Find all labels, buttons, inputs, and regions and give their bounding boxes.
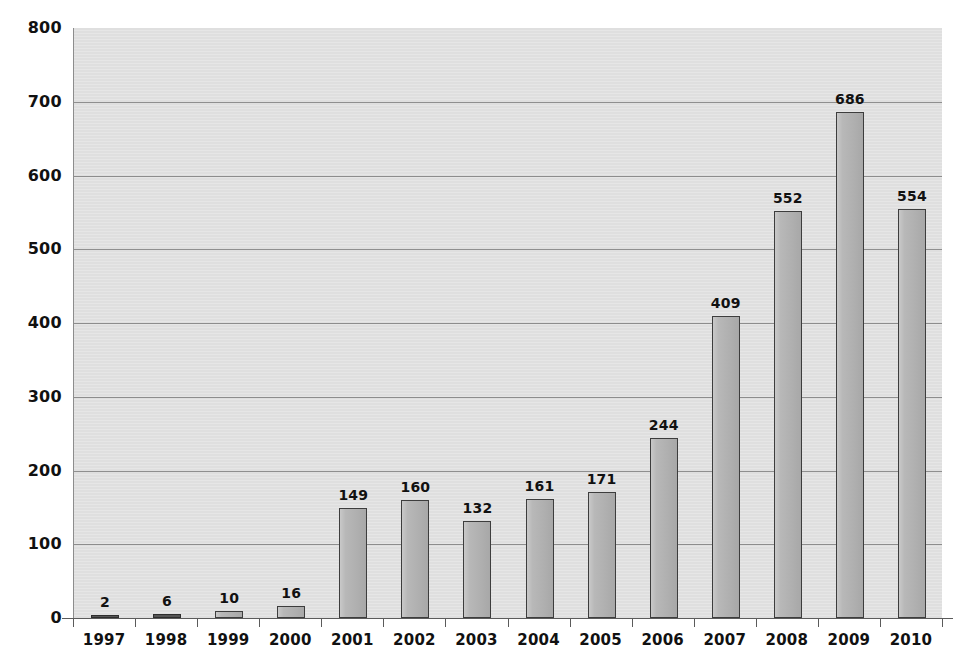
bar-value-label: 10 <box>219 591 239 605</box>
bar[interactable] <box>401 500 429 618</box>
bar-group: 132 <box>446 28 508 618</box>
bar[interactable] <box>650 438 678 618</box>
bar[interactable] <box>277 606 305 618</box>
x-tick-label: 2006 <box>641 631 684 649</box>
x-tick-label: 2008 <box>766 631 809 649</box>
bar[interactable] <box>339 508 367 618</box>
bar-value-label: 686 <box>835 92 865 106</box>
bar[interactable] <box>836 112 864 618</box>
plot-area: 261016149160132161171244409552686554 <box>73 28 942 618</box>
bar-group: 10 <box>198 28 260 618</box>
x-axis-ticks <box>73 618 942 627</box>
bar-value-label: 6 <box>162 594 172 608</box>
bar-group: 244 <box>633 28 695 618</box>
x-tick <box>880 618 881 627</box>
x-tick <box>445 618 446 627</box>
x-tick-label: 1998 <box>145 631 188 649</box>
y-axis: 0100200300400500600700800 <box>0 0 62 670</box>
bar-value-label: 552 <box>773 191 803 205</box>
bar-value-label: 149 <box>338 488 368 502</box>
x-tick <box>321 618 322 627</box>
bar-value-label: 554 <box>897 189 927 203</box>
x-tick-label: 2000 <box>269 631 312 649</box>
y-tick-label: 600 <box>0 168 62 184</box>
x-tick <box>942 618 943 627</box>
x-tick-label: 2005 <box>579 631 622 649</box>
x-tick <box>756 618 757 627</box>
bar-group: 686 <box>819 28 881 618</box>
y-tick-label: 300 <box>0 389 62 405</box>
x-tick-label: 1999 <box>207 631 250 649</box>
x-tick-label: 2010 <box>890 631 933 649</box>
y-tick-label: 200 <box>0 463 62 479</box>
bar-value-label: 16 <box>281 586 301 600</box>
bar-value-label: 160 <box>400 480 430 494</box>
x-tick-label: 2003 <box>455 631 498 649</box>
bar[interactable] <box>898 209 926 618</box>
x-tick <box>632 618 633 627</box>
x-tick-label: 1997 <box>83 631 126 649</box>
x-tick <box>818 618 819 627</box>
x-tick <box>197 618 198 627</box>
bar-group: 554 <box>881 28 943 618</box>
bar-value-label: 171 <box>587 472 617 486</box>
x-tick <box>694 618 695 627</box>
bar[interactable] <box>526 499 554 618</box>
bar[interactable] <box>712 316 740 618</box>
y-tick-label: 500 <box>0 241 62 257</box>
bar-value-label: 409 <box>711 296 741 310</box>
bar[interactable] <box>463 521 491 618</box>
bar-value-label: 161 <box>525 479 555 493</box>
bar-group: 552 <box>757 28 819 618</box>
bar-group: 16 <box>260 28 322 618</box>
y-tick-label: 0 <box>0 610 62 626</box>
x-tick-label: 2002 <box>393 631 436 649</box>
bar-group: 160 <box>384 28 446 618</box>
x-axis-labels: 1997199819992000200120022003200420052006… <box>73 631 942 661</box>
x-tick-label: 2009 <box>828 631 871 649</box>
bar-value-label: 244 <box>649 418 679 432</box>
bar[interactable] <box>588 492 616 618</box>
bars-layer: 261016149160132161171244409552686554 <box>74 28 942 618</box>
y-tick-label: 100 <box>0 536 62 552</box>
bar-group: 2 <box>74 28 136 618</box>
x-tick-label: 2004 <box>517 631 560 649</box>
bar-group: 149 <box>322 28 384 618</box>
bar-group: 161 <box>509 28 571 618</box>
y-tick-label: 800 <box>0 20 62 36</box>
y-tick-label: 700 <box>0 94 62 110</box>
x-tick <box>570 618 571 627</box>
x-tick <box>73 618 74 627</box>
x-tick <box>383 618 384 627</box>
bar-value-label: 132 <box>463 501 493 515</box>
bar-chart: 0100200300400500600700800 26101614916013… <box>0 0 961 670</box>
bar[interactable] <box>774 211 802 618</box>
bar-value-label: 2 <box>100 595 110 609</box>
y-tick-label: 400 <box>0 315 62 331</box>
x-tick <box>135 618 136 627</box>
x-tick <box>259 618 260 627</box>
bar-group: 6 <box>136 28 198 618</box>
x-tick-label: 2007 <box>703 631 746 649</box>
x-tick <box>508 618 509 627</box>
bar-group: 409 <box>695 28 757 618</box>
bar-group: 171 <box>571 28 633 618</box>
bar[interactable] <box>215 611 243 618</box>
x-tick-label: 2001 <box>331 631 374 649</box>
